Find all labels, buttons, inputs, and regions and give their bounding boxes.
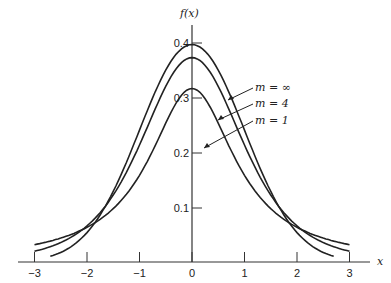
label-m-1: m = 1 [255,114,289,127]
annotations: m = ∞ m = 4 m = 1 f(x) x [179,7,384,268]
x-tick-label: −2 [81,267,94,279]
y-tick-label: 0.4 [174,37,189,49]
x-tick-label: −3 [28,267,41,279]
y-axis-label: f(x) [179,7,199,20]
label-m-inf: m = ∞ [255,81,291,94]
x-tick-label: 2 [294,267,300,279]
x-tick-label: 0 [189,267,195,279]
x-tick-label: 3 [346,267,352,279]
x-tick-label: 1 [241,267,247,279]
y-tick-label: 0.1 [174,202,189,214]
x-tick-label: −1 [133,267,146,279]
t-distribution-chart: −3−2−101230.10.20.30.4 m = ∞ m = 4 m = 1… [0,0,391,283]
label-m-4: m = 4 [255,97,289,110]
y-tick-label: 0.2 [174,147,189,159]
axes: −3−2−101230.10.20.30.4 [18,25,370,279]
x-axis-label: x [377,255,384,268]
